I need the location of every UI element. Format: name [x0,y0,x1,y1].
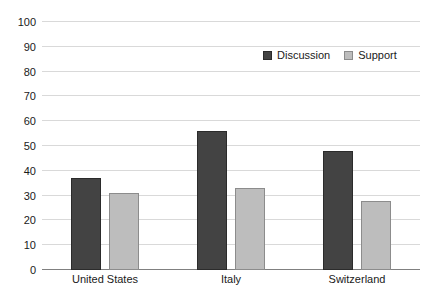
bar-support-united-states[interactable] [109,193,139,270]
legend-item-support[interactable]: Support [344,50,397,61]
bar-group [197,22,265,270]
y-axis-tick-label: 80 [4,67,36,78]
x-axis-category-label: United States [72,273,138,285]
bar-group [71,22,139,270]
legend-label: Discussion [277,50,330,61]
x-axis-category-label: Switzerland [329,273,386,285]
y-axis: 0102030405060708090100 [0,22,36,270]
y-axis-tick-label: 60 [4,116,36,127]
support-swatch [344,51,353,60]
discussion-swatch [263,51,272,60]
y-axis-tick-label: 20 [4,215,36,226]
y-axis-tick-label: 50 [4,141,36,152]
y-axis-tick-label: 0 [4,265,36,276]
bar-support-switzerland[interactable] [361,201,391,270]
x-axis-category-label: Italy [221,273,241,285]
bar-support-italy[interactable] [235,188,265,270]
bar-discussion-united-states[interactable] [71,178,101,270]
x-axis: United StatesItalySwitzerland [42,273,420,291]
legend-item-discussion[interactable]: Discussion [263,50,330,61]
legend-label: Support [358,50,397,61]
y-axis-tick-label: 100 [4,17,36,28]
y-axis-tick-label: 90 [4,42,36,53]
y-axis-tick-label: 70 [4,91,36,102]
y-axis-tick-label: 40 [4,166,36,177]
bar-chart: 0102030405060708090100 United StatesItal… [0,0,434,300]
y-axis-tick-label: 30 [4,191,36,202]
chart-legend: DiscussionSupport [263,50,397,61]
bar-discussion-switzerland[interactable] [323,151,353,270]
bar-discussion-italy[interactable] [197,131,227,270]
y-axis-tick-label: 10 [4,240,36,251]
